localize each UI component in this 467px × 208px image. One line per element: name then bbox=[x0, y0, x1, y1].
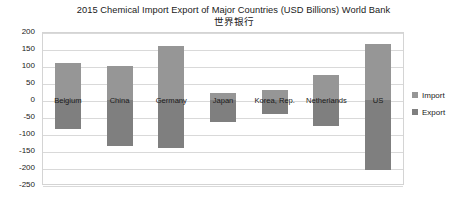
export-swatch bbox=[412, 109, 418, 115]
legend-item-export[interactable]: Export bbox=[412, 105, 467, 119]
legend-label: Import bbox=[422, 91, 445, 100]
y-axis-tick-label: -150 bbox=[0, 147, 35, 155]
bar-import[interactable] bbox=[262, 90, 288, 100]
y-axis-tick-label: 200 bbox=[0, 28, 35, 36]
y-axis-tick-label: -200 bbox=[0, 164, 35, 172]
chart-title: 2015 Chemical Import Export of Major Cou… bbox=[0, 4, 467, 16]
legend-item-import[interactable]: Import bbox=[412, 88, 467, 102]
y-axis-tick-label: 100 bbox=[0, 62, 35, 70]
bar-import[interactable] bbox=[107, 66, 133, 100]
bar-group[interactable] bbox=[262, 32, 288, 185]
y-axis: 200150100500-50-100-150-200-250 bbox=[0, 32, 40, 185]
bar-group[interactable] bbox=[210, 32, 236, 185]
y-axis-tick-label: -250 bbox=[0, 181, 35, 189]
y-axis-tick-label: 150 bbox=[0, 45, 35, 53]
bar-import[interactable] bbox=[158, 46, 184, 100]
y-axis-tick-label: 0 bbox=[0, 96, 35, 104]
bar-group[interactable] bbox=[158, 32, 184, 185]
chart-legend: ImportExport bbox=[412, 88, 467, 122]
chart-container: 2015 Chemical Import Export of Major Cou… bbox=[0, 0, 467, 208]
bar-export[interactable] bbox=[55, 100, 81, 129]
bar-import[interactable] bbox=[210, 93, 236, 100]
bar-export[interactable] bbox=[158, 100, 184, 148]
bar-group[interactable] bbox=[365, 32, 391, 185]
bar-import[interactable] bbox=[55, 63, 81, 100]
bar-export[interactable] bbox=[313, 100, 339, 126]
bar-group[interactable] bbox=[107, 32, 133, 185]
y-axis-tick-label: 50 bbox=[0, 79, 35, 87]
y-axis-tick-label: -100 bbox=[0, 130, 35, 138]
bar-group[interactable] bbox=[55, 32, 81, 185]
y-axis-tick-label: -50 bbox=[0, 113, 35, 121]
chart-subtitle: 世界银行 bbox=[0, 16, 467, 28]
bar-group[interactable] bbox=[313, 32, 339, 185]
bar-export[interactable] bbox=[262, 100, 288, 114]
bars-layer bbox=[42, 32, 404, 185]
gridline bbox=[43, 186, 403, 187]
bar-import[interactable] bbox=[365, 44, 391, 100]
import-swatch bbox=[412, 92, 418, 98]
bar-export[interactable] bbox=[107, 100, 133, 146]
bar-import[interactable] bbox=[313, 75, 339, 101]
legend-label: Export bbox=[422, 108, 445, 117]
bar-export[interactable] bbox=[210, 100, 236, 122]
bar-export[interactable] bbox=[365, 100, 391, 170]
